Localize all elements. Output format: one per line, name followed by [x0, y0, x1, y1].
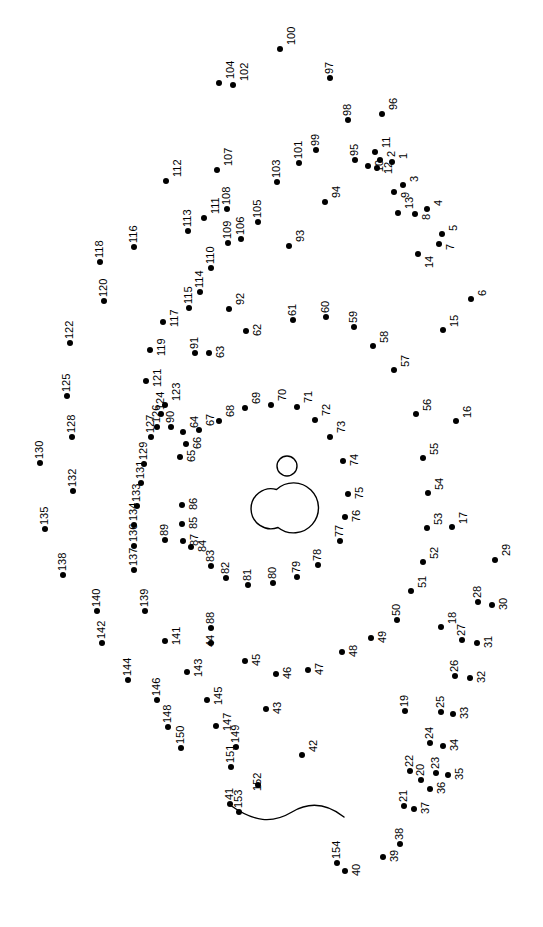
dot-marker-118: [97, 259, 103, 265]
dot-label-140: 140: [91, 589, 102, 607]
dot-marker-137: [131, 567, 137, 573]
dot-marker-107: [214, 167, 220, 173]
dot-marker-47: [305, 667, 311, 673]
dot-label-5: 5: [448, 225, 459, 231]
dot-label-40: 40: [351, 864, 362, 876]
dot-marker-114: [197, 289, 203, 295]
dot-label-25: 25: [435, 696, 446, 708]
dot-label-79: 79: [291, 561, 302, 573]
dot-marker-17: [449, 524, 455, 530]
dot-label-153: 153: [233, 790, 244, 808]
dot-label-131: 131: [135, 461, 146, 479]
dot-marker-70: [268, 402, 274, 408]
dot-marker-93: [286, 243, 292, 249]
dot-label-145: 145: [213, 687, 224, 705]
dot-label-47: 47: [314, 663, 325, 675]
dot-label-68: 68: [225, 405, 236, 417]
dot-label-154: 154: [331, 841, 342, 859]
dot-marker-42: [299, 752, 305, 758]
dot-marker-6: [468, 296, 474, 302]
dot-marker-75: [345, 491, 351, 497]
dot-label-142: 142: [96, 621, 107, 639]
dot-label-33: 33: [459, 707, 470, 719]
dot-label-17: 17: [458, 512, 469, 524]
dot-marker-29: [492, 557, 498, 563]
dot-label-132: 132: [67, 469, 78, 487]
dot-marker-138: [60, 572, 66, 578]
dot-label-43: 43: [272, 702, 283, 714]
dot-marker-45: [242, 658, 248, 664]
dot-label-95: 95: [349, 144, 360, 156]
dot-label-115: 115: [183, 286, 194, 304]
dot-label-11: 11: [381, 137, 392, 148]
dot-label-35: 35: [454, 768, 465, 780]
dot-marker-82: [223, 575, 229, 581]
dot-marker-49: [368, 635, 374, 641]
dot-label-73: 73: [336, 421, 347, 433]
dot-label-62: 62: [252, 324, 263, 336]
dot-label-97: 97: [324, 62, 335, 74]
dot-marker-119: [147, 347, 153, 353]
dot-marker-96: [379, 111, 385, 117]
dot-label-42: 42: [308, 740, 319, 752]
dot-label-24: 24: [424, 727, 435, 739]
dot-label-139: 139: [139, 589, 150, 607]
dot-label-50: 50: [391, 604, 402, 616]
dot-marker-132: [70, 488, 76, 494]
dot-marker-99: [313, 147, 319, 153]
dot-marker-90: [168, 424, 174, 430]
dot-label-118: 118: [94, 240, 105, 258]
dot-marker-65: [177, 454, 183, 460]
dot-marker-52: [420, 559, 426, 565]
dot-marker-30: [489, 602, 495, 608]
dot-label-74: 74: [349, 454, 360, 466]
dot-marker-21: [401, 803, 407, 809]
dot-marker-20: [418, 777, 424, 783]
dot-marker-53: [424, 525, 430, 531]
dot-marker-148: [165, 724, 171, 730]
dot-label-59: 59: [348, 311, 359, 323]
dot-marker-139: [142, 608, 148, 614]
dot-marker-39: [380, 854, 386, 860]
dot-label-104: 104: [225, 61, 236, 79]
dot-label-135: 135: [39, 507, 50, 525]
dot-label-54: 54: [434, 478, 445, 490]
dot-marker-67: [196, 427, 202, 433]
dot-label-109: 109: [222, 221, 233, 239]
dot-marker-60: [323, 314, 329, 320]
dot-marker-109: [225, 240, 231, 246]
dot-marker-46: [273, 671, 279, 677]
dot-label-103: 103: [271, 160, 282, 178]
dot-marker-28: [475, 599, 481, 605]
dot-label-90: 90: [165, 411, 176, 423]
dot-marker-105: [255, 219, 261, 225]
dot-label-146: 146: [151, 678, 162, 696]
dot-marker-97: [327, 75, 333, 81]
dot-label-86: 86: [188, 498, 199, 510]
dot-marker-10: [365, 163, 371, 169]
dot-label-60: 60: [320, 301, 331, 313]
dot-marker-153: [236, 809, 242, 815]
dot-marker-15: [440, 327, 446, 333]
dot-label-141: 141: [171, 627, 182, 645]
dot-label-96: 96: [388, 98, 399, 110]
dot-marker-51: [408, 588, 414, 594]
dot-label-122: 122: [64, 321, 75, 339]
dot-marker-50: [394, 617, 400, 623]
dot-label-28: 28: [472, 586, 483, 598]
dot-marker-80: [270, 580, 276, 586]
dot-marker-87: [180, 538, 186, 544]
dot-marker-25: [438, 709, 444, 715]
dot-label-150: 150: [175, 726, 186, 744]
dot-label-128: 128: [66, 415, 77, 433]
dot-marker-140: [94, 608, 100, 614]
dot-marker-127: [148, 434, 154, 440]
dot-label-65: 65: [186, 450, 197, 462]
dots-layer: 1234567891011121314151617181920212223242…: [0, 0, 543, 927]
dot-marker-31: [474, 640, 480, 646]
dot-marker-8: [412, 211, 418, 217]
dot-marker-89: [162, 537, 168, 543]
dot-label-38: 38: [394, 828, 405, 840]
dot-label-81: 81: [242, 569, 253, 581]
dot-marker-59: [351, 324, 357, 330]
